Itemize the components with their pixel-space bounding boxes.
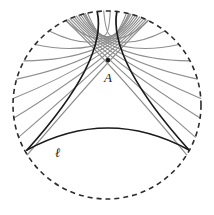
line-l-geodesic <box>27 128 189 150</box>
ultraparallel-geodesic <box>66 21 187 155</box>
point-a-label: A <box>103 70 112 85</box>
hyperbolic-parallels-figure: A ℓ <box>0 0 214 215</box>
line-l-geodesic-group <box>27 128 189 150</box>
figure-canvas: A ℓ <box>0 0 214 215</box>
line-l-label: ℓ <box>55 145 61 160</box>
point-a-marker <box>106 58 110 62</box>
